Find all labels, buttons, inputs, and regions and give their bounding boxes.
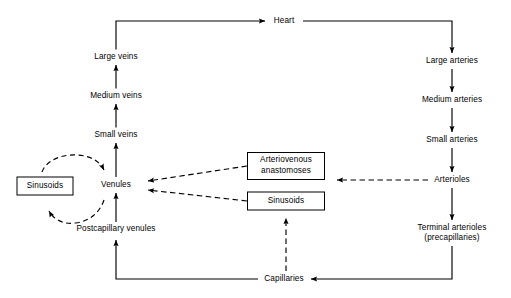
node-sinusoids-center: Sinusoids	[247, 192, 325, 211]
node-arterioles: Arterioles	[432, 175, 472, 185]
node-postcapillary-venules: Postcapillary venules	[74, 224, 157, 234]
edge-heart-to-large-arteries	[303, 21, 452, 53]
edge-terminal-arterioles-to-capillaries	[311, 246, 452, 279]
edge-large-veins-to-heart	[116, 21, 265, 50]
node-large-arteries: Large arteries	[424, 56, 480, 66]
edge-av-anastomoses-to-venules	[148, 166, 247, 181]
node-capillaries: Capillaries	[262, 274, 305, 284]
node-heart: Heart	[272, 16, 297, 26]
node-medium-arteries: Medium arteries	[420, 95, 484, 105]
diagram-connector-layer	[0, 0, 511, 298]
node-arteriovenous-anastomoses: Arteriovenous anastomoses	[247, 152, 325, 180]
edge-sinusoids-to-venules	[148, 190, 247, 201]
edge-capillaries-to-postcapillary-venules	[116, 240, 258, 279]
circulatory-flow-diagram: Heart Large arteries Medium arteries Sma…	[0, 0, 511, 298]
node-large-veins: Large veins	[92, 52, 139, 62]
node-sinusoids-left: Sinusoids	[17, 177, 74, 196]
node-venules: Venules	[99, 180, 133, 190]
edge-sinusoids-left-to-venules	[42, 155, 104, 172]
node-terminal-arterioles: Terminal arterioles (precapillaries)	[416, 223, 489, 244]
node-medium-veins: Medium veins	[88, 91, 144, 101]
edge-venules-to-sinusoids-left	[49, 200, 104, 223]
node-small-veins: Small veins	[93, 130, 140, 140]
node-small-arteries: Small arteries	[424, 135, 479, 145]
